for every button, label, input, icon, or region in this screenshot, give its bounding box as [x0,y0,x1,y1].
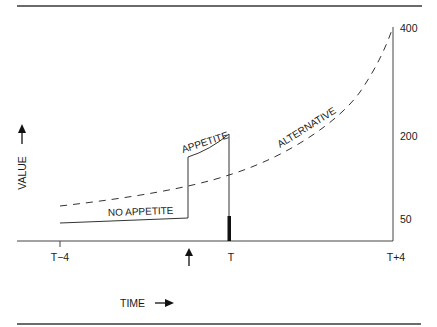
appetite-label: APPETITE [180,129,230,155]
y-label-50: 50 [400,213,412,225]
no-appetite-label: NO APPETITE [108,205,174,218]
tick-label-t-minus-4: T−4 [51,251,70,263]
y-label-200: 200 [400,130,418,142]
decision-bar [228,216,232,241]
time-axis-label: TIME [120,297,145,309]
value-axis-label: VALUE [16,156,28,190]
value-arrow-icon [18,124,26,144]
tick-label-t: T [228,251,235,263]
alternative-curve [60,27,393,206]
time-arrow-icon [155,299,174,307]
chart-canvas: VALUE TIME T−4 T T+4 400 200 50 NO APPET… [0,0,437,327]
y-label-400: 400 [400,22,418,34]
alternative-label: ALTERNATIVE [275,105,338,150]
onset-arrow-icon [185,248,193,266]
tick-label-t-plus-4: T+4 [387,251,406,263]
